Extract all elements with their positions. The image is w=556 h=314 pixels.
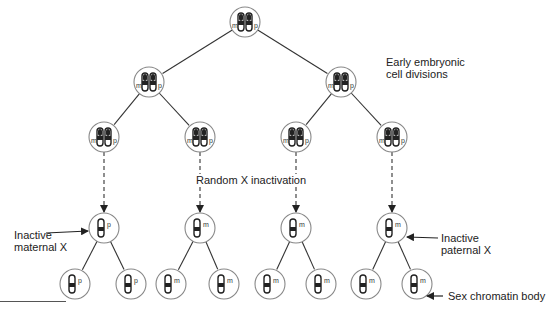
- parent-tag: m: [299, 221, 305, 228]
- division-edge: [159, 93, 189, 125]
- maternal-tag: m: [91, 137, 97, 144]
- cell-l5f: m: [306, 269, 336, 299]
- inactive-maternal-line2: maternal X: [14, 241, 67, 253]
- cell-l3a: mp: [89, 122, 119, 152]
- parent-tag: m: [227, 277, 233, 284]
- sex-chromatin-label: Sex chromatin body: [448, 290, 545, 302]
- cell-l4b: m: [185, 213, 215, 243]
- cell-l3d: mp: [377, 122, 407, 152]
- parent-tag: m: [273, 277, 279, 284]
- division-edge: [302, 242, 314, 270]
- early-divisions-line1: Early embryonic: [386, 56, 465, 68]
- paternal-tag: p: [158, 82, 162, 90]
- cell-l4d: m: [377, 213, 407, 243]
- cell-l2a: mp: [134, 67, 164, 97]
- division-edge: [206, 242, 218, 270]
- cell-l3c: mp: [281, 122, 311, 152]
- paternal-tag: p: [209, 137, 213, 145]
- cell-l5g: m: [351, 269, 381, 299]
- paternal-tag: p: [350, 82, 354, 90]
- cell-root: mp: [230, 7, 260, 37]
- x-inactivation-diagram: mpmpmpmpmpmpmppmmmppmmmmmm: [0, 0, 556, 314]
- cell-l4a: p: [89, 213, 119, 243]
- cell-l3b: mp: [185, 122, 215, 152]
- division-edge: [178, 241, 193, 269]
- division-edge: [82, 241, 97, 269]
- parent-tag: p: [107, 221, 111, 229]
- cell-l5a: p: [60, 269, 90, 299]
- maternal-tag: m: [187, 137, 193, 144]
- cell-l5h: m: [402, 269, 432, 299]
- random-x-inactivation-label: Random X inactivation: [195, 174, 307, 186]
- cells: mpmpmpmpmpmpmppmmmppmmmmmm: [60, 7, 432, 299]
- parent-tag: m: [369, 277, 375, 284]
- cell-l4c: m: [281, 213, 311, 243]
- paternal-tag: p: [254, 22, 258, 30]
- early-divisions-line2: cell divisions: [386, 68, 465, 80]
- cell-l5d: m: [209, 269, 239, 299]
- parent-tag: m: [324, 277, 330, 284]
- parent-tag: m: [420, 277, 426, 284]
- parent-tag: m: [395, 221, 401, 228]
- parent-tag: m: [174, 277, 180, 284]
- paternal-tag: p: [113, 137, 117, 145]
- division-edge: [258, 30, 328, 74]
- parent-tag: m: [203, 221, 209, 228]
- maternal-tag: m: [328, 82, 334, 89]
- inactive-paternal-line1: Inactive: [441, 232, 491, 244]
- parent-tag: p: [78, 277, 82, 285]
- division-edge: [398, 242, 410, 270]
- inactive-paternal-line2: paternal X: [441, 244, 491, 256]
- inactive-maternal-line1: Inactive: [14, 229, 67, 241]
- division-edge: [373, 242, 386, 270]
- inactive-paternal-label: Inactive paternal X: [441, 232, 491, 256]
- lineage-edges: [82, 30, 410, 270]
- division-edge: [111, 242, 125, 270]
- inactive-maternal-label: Inactive maternal X: [14, 229, 67, 253]
- cell-l2b: mp: [326, 67, 356, 97]
- cell-l5c: m: [156, 269, 186, 299]
- cell-l5e: m: [255, 269, 285, 299]
- footnote-rule: [0, 301, 66, 302]
- division-edge: [351, 93, 381, 125]
- division-edge: [114, 94, 139, 125]
- maternal-tag: m: [379, 137, 385, 144]
- maternal-tag: m: [232, 22, 238, 29]
- parent-tag: p: [134, 277, 138, 285]
- division-edge: [277, 242, 290, 270]
- maternal-tag: m: [136, 82, 142, 89]
- paternal-tag: p: [401, 137, 405, 145]
- division-edge: [306, 94, 331, 125]
- paternal-tag: p: [305, 137, 309, 145]
- inactive-paternal-arrow: [407, 237, 438, 238]
- maternal-tag: m: [283, 137, 289, 144]
- cell-l5b: p: [116, 269, 146, 299]
- early-divisions-label: Early embryonic cell divisions: [386, 56, 465, 80]
- division-edge: [163, 30, 233, 74]
